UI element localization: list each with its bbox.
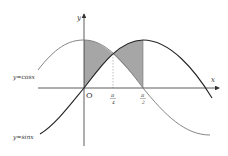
y-axis-label: y: [76, 14, 82, 22]
svg-text:π: π: [140, 92, 145, 98]
tick-pi-over-2: π 2: [140, 92, 146, 105]
x-axis-label: x: [211, 76, 215, 84]
svg-text:π: π: [110, 92, 115, 98]
sin-label: y=sinx: [12, 133, 34, 141]
figure-canvas: y x O π 4 π 2 y=cosx y=sinx: [0, 0, 228, 156]
origin-label: O: [86, 91, 93, 100]
svg-text:2: 2: [141, 100, 145, 105]
shaded-region: [84, 40, 143, 88]
tick-pi-over-4: π 4: [110, 92, 116, 105]
svg-text:4: 4: [111, 100, 115, 105]
cos-label: y=cosx: [12, 73, 35, 81]
